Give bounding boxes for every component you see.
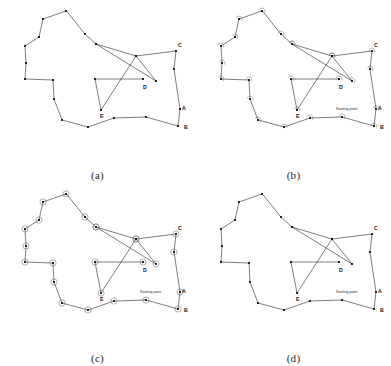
inner-path xyxy=(291,44,352,110)
vertex-dot xyxy=(173,68,175,70)
vertex-dot xyxy=(61,302,63,304)
vertex-label-e: E xyxy=(100,296,104,302)
vertex-dot xyxy=(113,117,115,119)
vertex-dot xyxy=(94,78,96,80)
vertex-label-b: B xyxy=(380,124,384,130)
vertex-dot xyxy=(369,68,371,70)
panel-a-drawing: ABCDE xyxy=(0,0,195,183)
vertex-label-a: A xyxy=(378,105,382,111)
vertex-dot xyxy=(38,219,40,221)
vertex-dot xyxy=(95,226,97,228)
vertex-label-a: A xyxy=(182,105,186,111)
vertex-dot xyxy=(145,116,147,118)
vertex-label-e: E xyxy=(296,113,300,119)
vertex-dot xyxy=(234,36,236,38)
vertex-dot xyxy=(238,201,240,203)
vertex-label-c: C xyxy=(178,42,182,48)
vertex-dot xyxy=(87,309,89,311)
vertex-label-b: B xyxy=(380,307,384,313)
vertex-dot xyxy=(220,45,222,47)
vertex-dot xyxy=(24,228,26,230)
vertex-dot xyxy=(177,125,179,127)
vertex-dot xyxy=(373,308,375,310)
vertex-dot xyxy=(113,300,115,302)
vertex-dot xyxy=(142,261,144,263)
vertex-dot xyxy=(145,299,147,301)
vertex-dot xyxy=(135,238,137,240)
vertex-dot xyxy=(25,62,27,64)
vertex-dot xyxy=(371,233,373,235)
vertex-dot xyxy=(220,228,222,230)
vertex-dot xyxy=(52,79,54,81)
vertex-label-e: E xyxy=(100,113,104,119)
vertex-dot xyxy=(155,80,157,82)
vertex-dot xyxy=(283,309,285,311)
outer-boundary xyxy=(25,11,180,127)
vertex-dot xyxy=(238,18,240,20)
vertex-dot xyxy=(309,117,311,119)
vertex-dot xyxy=(280,33,282,35)
panel-d-drawing: ABCDEStarting point xyxy=(196,183,391,366)
vertex-dot xyxy=(42,201,44,203)
vertex-dot xyxy=(283,126,285,128)
vertex-dot xyxy=(257,302,259,304)
vertex-dot xyxy=(248,262,250,264)
vertex-dot xyxy=(179,108,181,110)
vertex-dot xyxy=(341,116,343,118)
starting-point-label: Starting point xyxy=(336,290,357,294)
vertex-dot xyxy=(135,55,137,57)
vertex-dot xyxy=(249,281,251,283)
starting-point-label: Starting point xyxy=(336,107,357,111)
vertex-label-d: D xyxy=(339,84,343,90)
vertex-dot xyxy=(341,299,343,301)
vertex-dot xyxy=(351,80,353,82)
vertex-label-b: B xyxy=(184,307,188,313)
inner-path xyxy=(291,227,352,293)
panel-b: ABCDEStarting point (b) xyxy=(196,0,391,183)
vertex-dot xyxy=(142,78,144,80)
vertex-dot xyxy=(87,126,89,128)
vertex-dot xyxy=(234,219,236,221)
vertex-dot xyxy=(179,291,181,293)
panel-a: ABCDE (a) xyxy=(0,0,195,183)
panel-d-caption: (d) xyxy=(196,352,391,364)
vertex-dot xyxy=(373,125,375,127)
vertex-dot xyxy=(24,45,26,47)
vertex-dot xyxy=(84,33,86,35)
panel-c: ABCDEStarting point (c) xyxy=(0,183,195,366)
vertex-dot xyxy=(291,43,293,45)
panel-b-caption: (b) xyxy=(196,169,391,181)
vertex-dot xyxy=(261,10,263,12)
vertex-dot xyxy=(65,193,67,195)
vertex-dot xyxy=(175,233,177,235)
panel-a-caption: (a) xyxy=(0,169,195,181)
vertex-dot xyxy=(296,292,298,294)
vertex-dot xyxy=(375,108,377,110)
vertex-label-b: B xyxy=(184,124,188,130)
vertex-dot xyxy=(375,291,377,293)
vertex-dot xyxy=(309,300,311,302)
vertex-dot xyxy=(369,251,371,253)
vertex-label-c: C xyxy=(374,42,378,48)
vertex-dot xyxy=(24,78,26,80)
vertex-label-a: A xyxy=(378,288,382,294)
vertex-dot xyxy=(173,251,175,253)
inner-path xyxy=(95,44,156,110)
vertex-dot xyxy=(25,245,27,247)
vertex-dot xyxy=(290,261,292,263)
vertex-dot xyxy=(220,261,222,263)
vertex-dot xyxy=(249,98,251,100)
vertex-dot xyxy=(280,216,282,218)
vertex-dot xyxy=(100,292,102,294)
panel-d: ABCDEStarting point (d) xyxy=(196,183,391,366)
vertex-dot xyxy=(221,245,223,247)
vertex-dot xyxy=(248,79,250,81)
vertex-dot xyxy=(338,261,340,263)
vertex-dot xyxy=(331,238,333,240)
vertex-dot xyxy=(24,261,26,263)
vertex-dot xyxy=(291,226,293,228)
vertex-dot xyxy=(221,62,223,64)
vertex-label-c: C xyxy=(178,225,182,231)
vertex-dot xyxy=(175,50,177,52)
vertex-dot xyxy=(257,119,259,121)
